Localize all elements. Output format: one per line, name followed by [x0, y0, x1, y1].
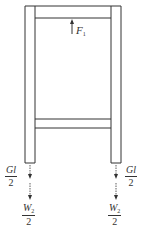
right-w-arrowhead — [114, 195, 118, 200]
right-w-fraction: W2 2 — [108, 203, 121, 227]
right-gl-fraction: Gl 2 — [125, 165, 137, 188]
force-f1-arrowhead — [70, 19, 74, 24]
force-f1-label: F1 — [76, 25, 86, 37]
left-gl-arrowhead — [28, 174, 32, 179]
right-gl-arrowhead — [114, 174, 118, 179]
left-gl-fraction: Gl 2 — [5, 165, 17, 188]
left-w-arrowhead — [28, 195, 32, 200]
frame-diagram — [0, 0, 146, 230]
left-w-fraction: W2 2 — [22, 203, 35, 227]
